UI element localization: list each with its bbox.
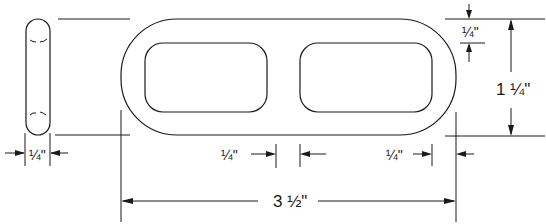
right-rim-label: ¼" xyxy=(386,147,403,163)
overall-height-label: 1 ¼" xyxy=(496,80,530,99)
technical-drawing: ¼" ¼" 1 ¼" ¼" xyxy=(0,0,546,224)
arrow-icon xyxy=(508,19,514,30)
arrow-icon xyxy=(466,43,472,52)
overall-length-label: 3 ½" xyxy=(273,192,307,211)
arrow-icon xyxy=(121,198,133,204)
arrow-icon xyxy=(15,150,25,156)
arrow-icon xyxy=(266,151,276,157)
arrow-icon xyxy=(300,151,310,157)
height-dimensions: ¼" 1 ¼" xyxy=(445,4,545,136)
arrow-icon xyxy=(456,151,466,157)
arrow-icon xyxy=(466,10,472,19)
arrow-icon xyxy=(422,151,432,157)
arrow-icon xyxy=(508,125,514,136)
arrow-icon xyxy=(444,198,456,204)
side-view-hidden-edge-bottom xyxy=(30,112,46,115)
center-bar-label: ¼" xyxy=(221,147,238,163)
length-dimensions: ¼" ¼" 3 ½" xyxy=(121,110,474,222)
side-view-outline xyxy=(26,19,50,135)
side-view-hidden-edge-top xyxy=(30,39,47,42)
side-thickness-label: ¼" xyxy=(29,147,46,163)
right-opening xyxy=(300,43,432,112)
left-opening xyxy=(145,43,267,112)
arrow-icon xyxy=(50,150,60,156)
front-view-outer-outline xyxy=(121,19,456,135)
front-view xyxy=(121,19,456,135)
top-rim-label: ¼" xyxy=(462,24,479,40)
side-view: ¼" xyxy=(5,19,68,166)
